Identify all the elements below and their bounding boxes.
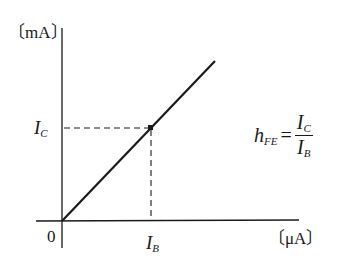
ic-label-sub: C (40, 127, 47, 139)
formula-lhs-main: h (254, 124, 264, 146)
denominator-main: I (297, 136, 304, 158)
characteristic-line (62, 61, 215, 221)
ib-label-sub: B (152, 242, 159, 254)
operating-point-marker (148, 125, 153, 130)
x-axis-unit-label: 〔μA〕 (268, 230, 323, 247)
numerator-sub: C (303, 122, 310, 134)
formula-fraction: IC IB (295, 112, 313, 159)
formula-lhs: hFE (254, 124, 277, 147)
formula-denominator: IB (297, 136, 310, 159)
y-axis-unit-label: 〔mA〕 (8, 24, 68, 41)
denominator-sub: B (304, 147, 311, 159)
x-axis (36, 220, 299, 221)
formula-equals: = (280, 124, 291, 147)
ib-label: IB (146, 233, 159, 254)
formula-numerator: IC (295, 112, 313, 136)
formula-lhs-sub: FE (264, 135, 277, 147)
ic-label: IC (34, 118, 48, 139)
origin-label: 0 (47, 228, 56, 245)
hfe-formula: hFE = IC IB (254, 112, 313, 159)
